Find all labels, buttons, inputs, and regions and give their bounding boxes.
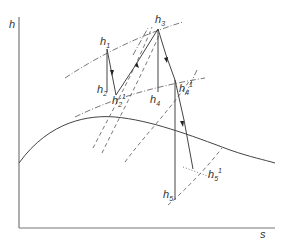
isobar-lines xyxy=(65,22,205,117)
point-label-h4-prime: h41 xyxy=(179,81,193,96)
point-label-h2: h2 xyxy=(97,83,107,97)
saturation-curve xyxy=(19,117,275,163)
y-axis-label: h xyxy=(9,18,15,30)
process-lines xyxy=(107,29,193,200)
x-axis-label: s xyxy=(260,228,266,240)
hs-diagram: h s h1 h2 h21 h3 h4 h41 h5 h51 xyxy=(0,0,293,243)
point-label-h2-prime: h21 xyxy=(112,93,126,108)
point-label-h5-prime: h51 xyxy=(208,167,222,182)
arrow-icons xyxy=(110,57,184,127)
point-label-h5: h5 xyxy=(163,188,173,202)
point-label-h1: h1 xyxy=(100,35,110,49)
point-label-h4: h4 xyxy=(150,93,160,107)
point-label-h3: h3 xyxy=(155,13,165,27)
